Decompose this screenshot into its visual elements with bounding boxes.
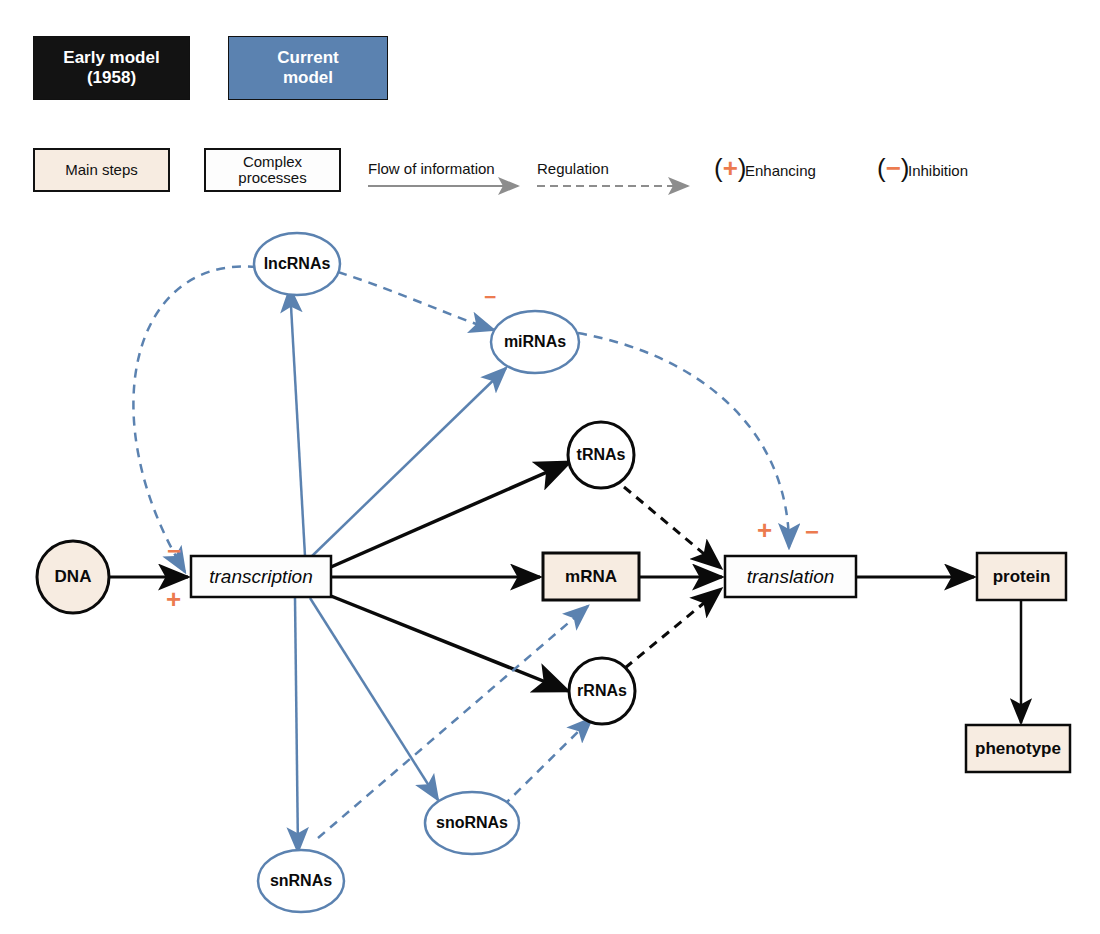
edge-lncrnas-to-mirnas: [338, 272, 494, 330]
node-rrnas[interactable]: [569, 658, 635, 724]
edge-transcription-to-snrnas: [295, 598, 298, 852]
edge-transcription-to-snornas: [310, 598, 438, 800]
node-snornas[interactable]: [425, 792, 519, 854]
diagram-canvas: Early model (1958) Current model Main st…: [0, 0, 1100, 934]
edge-transcription-to-rrnas: [331, 596, 568, 691]
node-trnas[interactable]: [568, 422, 634, 488]
edge-snornas-to-rrnas: [503, 718, 592, 806]
edge-lncrnas-to-transcription: [133, 266, 257, 572]
edge-transcription-to-trnas: [331, 462, 570, 567]
diagram-graph-layer: [0, 0, 1100, 934]
node-translation[interactable]: [725, 556, 856, 597]
node-dna[interactable]: [37, 541, 109, 613]
node-mirnas[interactable]: [491, 311, 579, 373]
node-snrnas[interactable]: [258, 850, 344, 912]
node-mrna[interactable]: [543, 553, 639, 600]
edge-transcription-to-mirnas: [310, 368, 506, 558]
node-phenotype[interactable]: [966, 725, 1070, 772]
node-lncrnas[interactable]: [254, 233, 340, 295]
node-protein[interactable]: [977, 553, 1066, 600]
edge-transcription-to-lncrnas: [290, 288, 305, 556]
node-transcription[interactable]: [191, 556, 331, 597]
